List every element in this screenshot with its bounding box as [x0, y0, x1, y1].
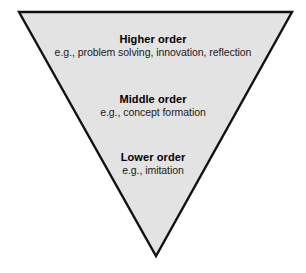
tier-lower-order-title: Lower order: [0, 151, 306, 164]
tier-higher-order-subtitle: e.g., problem solving, innovation, refle…: [0, 46, 306, 59]
thinking-order-triangle-diagram: Higher order e.g., problem solving, inno…: [0, 0, 306, 273]
tier-lower-order: Lower order e.g., imitation: [0, 151, 306, 177]
tier-middle-order: Middle order e.g., concept formation: [0, 93, 306, 119]
tier-higher-order: Higher order e.g., problem solving, inno…: [0, 33, 306, 59]
tier-middle-order-title: Middle order: [0, 93, 306, 106]
tier-higher-order-title: Higher order: [0, 33, 306, 46]
tier-middle-order-subtitle: e.g., concept formation: [0, 106, 306, 119]
tier-lower-order-subtitle: e.g., imitation: [0, 164, 306, 177]
